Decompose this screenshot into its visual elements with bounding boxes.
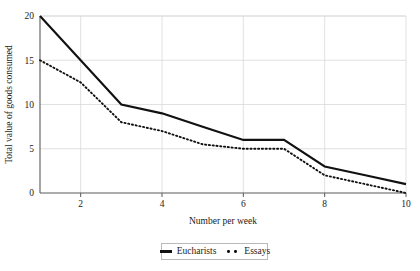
legend-label-eucharists: Eucharists: [177, 247, 217, 257]
tick-labels: 24681005101520: [25, 11, 412, 209]
axis-titles: Number per weekTotal value of goods cons…: [4, 45, 257, 226]
x-tick-label: 8: [322, 199, 327, 209]
y-tick-label: 5: [29, 144, 34, 154]
y-tick-label: 10: [25, 100, 35, 110]
x-tick-label: 2: [78, 199, 83, 209]
y-axis-title: Total value of goods consumed: [4, 45, 14, 164]
x-tick-label: 6: [241, 199, 246, 209]
x-tick-label: 10: [401, 199, 411, 209]
y-tick-label: 20: [25, 11, 35, 21]
dotted-line-swatch-icon: [226, 247, 240, 256]
legend-label-essays: Essays: [244, 247, 270, 257]
grid-lines: [40, 16, 406, 193]
legend-entry-eucharists: Eucharists: [159, 247, 217, 257]
y-tick-label: 15: [25, 56, 35, 66]
tick-marks: [81, 193, 406, 197]
legend-entry-essays: Essays: [226, 247, 270, 257]
x-tick-label: 4: [160, 199, 165, 209]
y-tick-label: 0: [29, 188, 34, 198]
chart-legend: Eucharists Essays: [161, 243, 268, 260]
x-axis-title: Number per week: [189, 216, 257, 226]
solid-line-swatch-icon: [159, 247, 173, 256]
line-chart: 24681005101520 Number per weekTotal valu…: [0, 0, 420, 271]
plot-canvas: 24681005101520 Number per weekTotal valu…: [0, 0, 420, 271]
series-line-eucharists: [40, 16, 406, 184]
